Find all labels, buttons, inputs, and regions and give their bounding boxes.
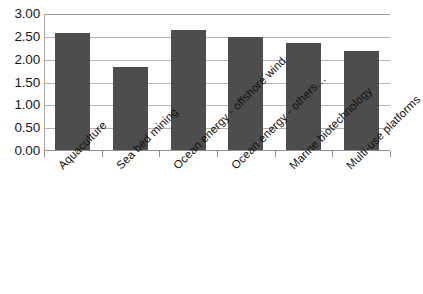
y-axis-tick-label: 0.00 <box>0 144 40 158</box>
x-axis-tick-mark <box>390 151 391 157</box>
y-axis: 0.000.501.001.502.002.503.00 <box>0 14 40 151</box>
x-axis-tick-mark <box>102 151 103 157</box>
y-axis-line <box>44 14 45 151</box>
x-axis-tick-mark <box>159 151 160 157</box>
y-axis-tick-label: 2.00 <box>0 53 40 67</box>
x-axis-tick-mark <box>275 151 276 157</box>
y-axis-tick-label: 2.50 <box>0 30 40 44</box>
y-axis-tick-label: 3.00 <box>0 7 40 21</box>
x-axis-tick-mark <box>332 151 333 157</box>
x-axis-tick-mark <box>44 151 45 157</box>
y-axis-tick-label: 0.50 <box>0 121 40 135</box>
y-axis-tick-label: 1.50 <box>0 76 40 90</box>
x-axis-tick-mark <box>217 151 218 157</box>
y-axis-tick-label: 1.00 <box>0 99 40 113</box>
